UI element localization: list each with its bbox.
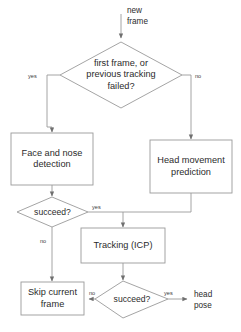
edge-head-prediction-to-tracking	[123, 193, 191, 212]
edge-first-frame-yes	[47, 75, 60, 132]
decision-first-frame-shape	[60, 42, 182, 108]
process-head-prediction-shape	[150, 140, 232, 193]
flowchart-canvas	[0, 0, 241, 332]
terminal-head-pose: head pose	[194, 290, 212, 311]
edge-label-first-frame-no: no	[195, 73, 201, 80]
process-face-detection-shape	[11, 133, 93, 185]
edge-first-frame-no	[182, 75, 191, 139]
edge-label-detect-succeed-no: no	[40, 238, 46, 245]
flowchart-diagram: new frame first frame, or previous track…	[0, 0, 241, 332]
edge-label-track-succeed-yes: yes	[164, 290, 173, 297]
process-skip-frame-shape	[21, 282, 84, 315]
edge-label-first-frame-yes: yes	[28, 73, 37, 80]
edge-label-detect-succeed-yes: yes	[92, 204, 101, 211]
decision-track-succeed-shape	[95, 281, 168, 318]
edge-label-track-succeed-no: no	[89, 290, 95, 297]
decision-detect-succeed-shape	[17, 197, 88, 227]
terminal-new-frame: new frame	[127, 6, 148, 27]
process-tracking-shape	[81, 228, 165, 263]
